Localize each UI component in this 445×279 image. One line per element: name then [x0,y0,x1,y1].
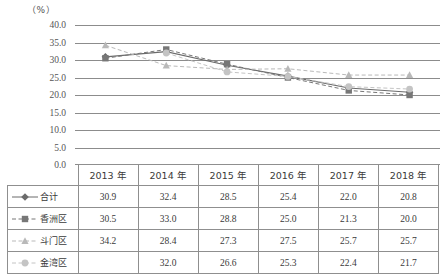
legend-label: 合计 [40,190,58,203]
y-axis-unit-label: （%） [27,3,55,16]
series-lines-layer [75,25,440,165]
legend-row-0: 合计 [8,186,79,208]
table-cell-r0-c3: 25.4 [258,186,318,208]
y-tick-35: 35.0 [49,38,66,48]
legend-marker-circle-icon [12,257,38,269]
legend-label: 香洲区 [40,212,67,225]
table-cell-r2-c5: 25.7 [378,230,438,252]
y-tick-20: 20.0 [49,90,66,100]
data-table: 2013 年 2014 年 2015 年 2016 年 2017 年 2018 … [7,164,439,274]
series-2 [102,42,413,79]
legend-row-1: 香洲区 [8,208,79,230]
table-cell-r1-c0: 30.5 [78,208,138,230]
table-row: 香洲区30.533.028.825.021.320.0 [8,208,439,230]
table-cell-r3-c4: 22.4 [318,252,378,274]
y-axis-tick-labels: 40.0 35.0 30.0 25.0 20.0 15.0 10.0 5.0 0… [0,25,70,165]
table-cell-r2-c0: 34.2 [78,230,138,252]
table-cell-r1-c3: 25.0 [258,208,318,230]
table-header-row: 2013 年 2014 年 2015 年 2016 年 2017 年 2018 … [8,165,439,186]
table-header-2014: 2014 年 [138,165,198,186]
y-tick-30: 30.0 [49,55,66,65]
table-corner-cell [8,165,79,186]
table-cell-r0-c2: 28.5 [198,186,258,208]
table-cell-r1-c5: 20.0 [378,208,438,230]
table-cell-r2-c4: 25.7 [318,230,378,252]
table-header-2013: 2013 年 [78,165,138,186]
table-cell-r3-c0 [78,252,138,274]
legend-label: 斗门区 [40,234,67,247]
table-cell-r2-c1: 28.4 [138,230,198,252]
table-cell-r0-c4: 22.0 [318,186,378,208]
table-body: 合计30.932.428.525.422.020.8香洲区30.533.028.… [8,186,439,274]
table-row: 金湾区32.026.625.322.421.7 [8,252,439,274]
legend-row-3: 金湾区 [8,252,79,274]
y-tick-15: 15.0 [49,108,66,118]
table-cell-r1-c1: 33.0 [138,208,198,230]
legend-marker-diamond-icon [12,191,38,203]
legend-marker-triangle-icon [12,235,38,247]
series-0 [102,48,414,96]
y-tick-5: 5.0 [54,143,66,153]
plot-area [75,25,440,165]
table-cell-r2-c3: 27.5 [258,230,318,252]
table-cell-r2-c2: 27.3 [198,230,258,252]
table-cell-r3-c3: 25.3 [258,252,318,274]
legend-marker-square-icon [12,213,38,225]
table-header-2017: 2017 年 [318,165,378,186]
y-tick-10: 10.0 [49,125,66,135]
y-tick-25: 25.0 [49,73,66,83]
table-header-2016: 2016 年 [258,165,318,186]
table-cell-r3-c1: 32.0 [138,252,198,274]
table-cell-r1-c4: 21.3 [318,208,378,230]
table-cell-r3-c5: 21.7 [378,252,438,274]
table-cell-r1-c2: 28.8 [198,208,258,230]
table-row: 合计30.932.428.525.422.020.8 [8,186,439,208]
legend-row-2: 斗门区 [8,230,79,252]
line-chart-figure: （%） 40.0 35.0 30.0 25.0 20.0 15.0 10.0 5… [0,0,445,279]
y-tick-40: 40.0 [49,20,66,30]
table-header-2015: 2015 年 [198,165,258,186]
table-row: 斗门区34.228.427.327.525.725.7 [8,230,439,252]
table-cell-r0-c1: 32.4 [138,186,198,208]
legend-label: 金湾区 [40,256,67,269]
table-cell-r3-c2: 26.6 [198,252,258,274]
series-1 [102,46,413,98]
table-cell-r0-c0: 30.9 [78,186,138,208]
table-header-2018: 2018 年 [378,165,438,186]
table-cell-r0-c5: 20.8 [378,186,438,208]
